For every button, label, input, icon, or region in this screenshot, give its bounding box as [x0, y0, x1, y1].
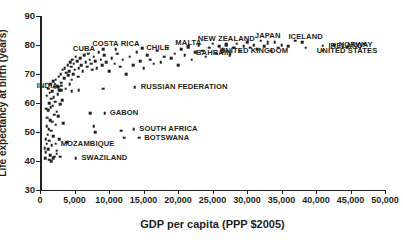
data-point — [75, 55, 78, 58]
x-tick-label: 30,000 — [233, 196, 261, 205]
data-point — [63, 77, 66, 80]
x-tick-mark — [385, 190, 386, 194]
data-point — [123, 137, 126, 140]
data-point — [79, 57, 82, 60]
data-point — [48, 139, 51, 142]
data-point — [52, 135, 55, 138]
data-point — [54, 123, 57, 126]
data-point — [142, 67, 145, 70]
data-point — [61, 99, 64, 102]
data-point — [146, 54, 149, 57]
data-point — [93, 125, 96, 128]
x-tick-label: 45,000 — [337, 196, 365, 205]
data-point — [170, 57, 173, 60]
data-point — [46, 94, 49, 97]
point-annotation-label: INDIA — [37, 82, 58, 90]
x-tick-label: 0 — [37, 196, 42, 205]
point-annotation-label: SWAZILAND — [81, 154, 127, 162]
data-point — [50, 160, 53, 163]
data-point — [120, 129, 123, 132]
data-point — [77, 89, 80, 92]
point-annotation-label: BOTSWANA — [144, 134, 189, 142]
x-tick-mark — [247, 190, 248, 194]
data-point-labeled — [104, 112, 107, 115]
data-point — [149, 58, 152, 61]
data-point — [77, 67, 80, 70]
data-point — [44, 147, 47, 150]
data-point — [53, 113, 56, 116]
data-point — [191, 58, 194, 61]
data-point — [132, 64, 135, 67]
data-point — [55, 110, 58, 113]
data-point-labeled — [55, 142, 58, 145]
y-tick-mark — [36, 132, 40, 133]
x-tick-mark — [40, 190, 41, 194]
data-point — [99, 58, 102, 61]
data-point — [50, 129, 53, 132]
x-tick-label: 15,000 — [130, 196, 158, 205]
point-annotation-label: RUSSIAN FEDERATION — [141, 83, 228, 91]
data-point-labeled — [133, 128, 136, 131]
y-tick-mark — [36, 103, 40, 104]
x-tick-label: 40,000 — [302, 196, 330, 205]
data-point — [70, 79, 73, 82]
data-point — [59, 73, 62, 76]
y-tick-mark — [36, 161, 40, 162]
y-tick-label: 50 — [24, 127, 35, 137]
data-point — [97, 51, 100, 54]
data-point — [102, 87, 105, 90]
data-point-labeled — [301, 41, 304, 44]
data-point — [51, 105, 54, 108]
data-point — [68, 83, 71, 86]
data-point — [62, 122, 65, 125]
data-point — [108, 70, 111, 73]
data-point — [159, 61, 162, 64]
data-point — [53, 96, 56, 99]
y-tick-label: 80 — [24, 40, 35, 50]
data-point-labeled — [225, 43, 228, 46]
data-point — [95, 67, 98, 70]
data-point — [57, 115, 60, 118]
data-point — [48, 102, 51, 105]
data-point — [184, 54, 187, 57]
data-point — [60, 89, 63, 92]
data-point — [64, 67, 67, 70]
data-point — [125, 73, 128, 76]
data-point — [94, 60, 97, 63]
x-tick-mark — [109, 190, 110, 194]
data-point — [88, 58, 91, 61]
x-axis-title: GDP per capita (PPP $2005) — [40, 218, 385, 230]
data-point — [105, 61, 108, 64]
data-point — [119, 65, 122, 68]
data-point-labeled — [133, 86, 136, 89]
data-point — [47, 109, 50, 112]
x-tick-mark — [178, 190, 179, 194]
data-point — [89, 112, 92, 115]
data-point — [128, 55, 131, 58]
data-point — [68, 70, 71, 73]
data-point-labeled — [75, 157, 78, 160]
x-tick-label: 5,000 — [63, 196, 86, 205]
x-tick-label: 35,000 — [268, 196, 296, 205]
point-annotation-label: COSTA RICA — [92, 40, 139, 48]
point-annotation-label: JAPAN — [255, 33, 281, 41]
x-tick-label: 20,000 — [164, 196, 192, 205]
data-point — [76, 60, 79, 63]
x-tick-mark — [282, 190, 283, 194]
data-point — [110, 57, 113, 60]
data-point — [90, 63, 93, 66]
data-point — [304, 47, 307, 50]
data-point — [116, 52, 119, 55]
point-annotation-label: NEW ZEALAND — [198, 35, 255, 43]
y-tick-mark — [36, 45, 40, 46]
data-point — [70, 65, 73, 68]
x-tick-mark — [144, 190, 145, 194]
data-point — [86, 65, 89, 68]
scatter-chart: 30405060708090 05,00010,00015,00020,0002… — [0, 0, 403, 248]
data-point — [73, 63, 76, 66]
data-point — [47, 148, 50, 151]
data-point — [56, 93, 59, 96]
data-point — [122, 58, 125, 61]
data-point — [273, 41, 276, 44]
data-point-labeled — [138, 137, 141, 140]
